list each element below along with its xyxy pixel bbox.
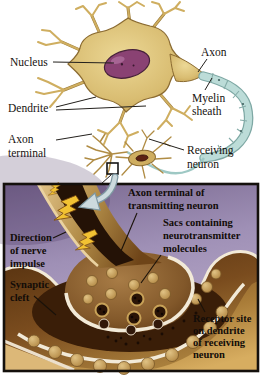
axon-terminal-transmitting-label-2: transmitting neuron xyxy=(128,200,219,211)
synapse-closeup: Axon terminal of transmitting neuron Sac… xyxy=(0,155,258,375)
axon-label: Axon xyxy=(201,46,227,58)
receptor-site-label-3: of receiving xyxy=(193,337,246,348)
myelin-label-1: Myelin xyxy=(192,92,225,105)
sacs-label-2: neurotransmitter xyxy=(163,230,241,241)
direction-label-2: of nerve xyxy=(10,245,47,256)
direction-label-3: impulse xyxy=(10,258,45,269)
dendrite-label: Dendrite xyxy=(8,102,48,114)
direction-label-1: Direction xyxy=(10,232,52,243)
sacs-label-3: molecules xyxy=(163,243,207,254)
synaptic-cleft-label-1: Synaptic xyxy=(10,279,49,290)
neuron-synapse-diagram: Nucleus Dendrite Axon Myelin sheath Axon… xyxy=(0,0,262,376)
sacs-label-1: Sacs containing xyxy=(163,217,233,228)
receptor-site-label-4: neuron xyxy=(193,349,225,360)
synaptic-cleft-label-2: cleft xyxy=(10,292,30,303)
myelin-label-2: sheath xyxy=(192,105,222,117)
receptor-site-label-2: on dendrite xyxy=(193,325,245,336)
axon-terminal-transmitting-label-1: Axon terminal of xyxy=(128,187,205,198)
receiving-neuron-label-1: Receiving xyxy=(187,144,234,157)
receptor-site-label-1: Receptor site xyxy=(193,313,252,324)
receiving-neuron-label-2: neuron xyxy=(187,158,219,170)
axon-terminal-label-1: Axon xyxy=(8,133,34,145)
diagram-canvas: Nucleus Dendrite Axon Myelin sheath Axon… xyxy=(0,0,262,376)
nucleus-label: Nucleus xyxy=(10,56,48,68)
